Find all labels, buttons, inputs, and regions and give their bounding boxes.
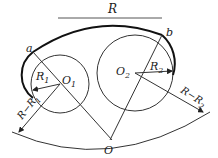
point-b-label: b [166, 26, 173, 39]
r2-label: R2 [149, 60, 163, 75]
tangent-arc-diagram: R a b O O1 O2 R1 R2 R−R1 R−R2 [0, 0, 218, 158]
o1-label: O1 [62, 74, 76, 89]
r-label: R [107, 2, 117, 16]
line-b-o [110, 35, 162, 140]
r-minus-r2-label: R−R2 [177, 84, 209, 111]
line-a-o [33, 52, 112, 140]
connecting-arc-ab [33, 26, 162, 52]
o2-label: O2 [116, 65, 130, 80]
point-a-label: a [26, 42, 33, 55]
point-o-label: O [104, 144, 113, 157]
r1-label: R1 [35, 70, 49, 85]
arc-o1-outer [22, 52, 33, 98]
